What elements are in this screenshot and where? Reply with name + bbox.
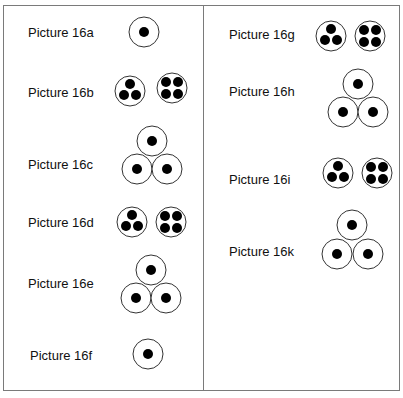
trefoil-cables-icon-16k xyxy=(0,0,403,398)
